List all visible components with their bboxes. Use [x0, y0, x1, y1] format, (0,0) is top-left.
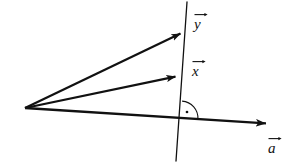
- diagram-canvas: [0, 0, 289, 164]
- vector-label-x: x: [192, 59, 199, 79]
- vector-overarrow-icon: [194, 12, 208, 17]
- vector-y-arrow: [25, 34, 181, 108]
- vector-overarrow-icon: [192, 59, 206, 64]
- right-angle-dot: [186, 111, 189, 114]
- vector-diagram-figure: y x a: [0, 0, 289, 164]
- vector-label-x-text: x: [192, 63, 199, 79]
- vector-a-arrow: [25, 108, 266, 123]
- vector-x-arrow: [25, 77, 176, 108]
- vector-label-a: a: [268, 136, 276, 156]
- subspace-line: [176, 2, 187, 161]
- vector-label-y: y: [194, 12, 201, 32]
- vector-label-a-text: a: [268, 140, 276, 156]
- vector-label-y-text: y: [194, 16, 201, 32]
- vector-overarrow-icon: [268, 136, 282, 141]
- right-angle-arc: [182, 101, 198, 119]
